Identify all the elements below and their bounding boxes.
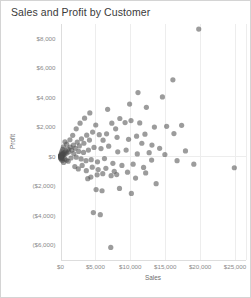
scatter-point[interactable]: [95, 159, 100, 164]
scatter-point[interactable]: [124, 147, 129, 152]
scatter-point[interactable]: [171, 131, 176, 136]
scatter-point[interactable]: [90, 129, 95, 134]
y-tick-label: $2,000: [37, 123, 56, 130]
scatter-point[interactable]: [113, 126, 118, 131]
scatter-point[interactable]: [183, 148, 188, 153]
scatter-point[interactable]: [164, 124, 169, 129]
scatter-point[interactable]: [70, 133, 75, 138]
scatter-point[interactable]: [133, 175, 138, 180]
scatter-point[interactable]: [232, 165, 237, 170]
scatter-point[interactable]: [129, 191, 134, 196]
scatter-point[interactable]: [88, 174, 93, 179]
scatter-point[interactable]: [84, 133, 89, 138]
scatter-point[interactable]: [87, 110, 92, 115]
scatter-point[interactable]: [83, 158, 88, 163]
scatter-point[interactable]: [74, 155, 79, 160]
scatter-point[interactable]: [103, 166, 108, 171]
scatter-point[interactable]: [196, 27, 201, 32]
y-tick-label: $4,000: [37, 94, 56, 101]
scatter-point[interactable]: [114, 135, 119, 140]
scatter-point[interactable]: [91, 210, 96, 215]
y-tick-label: $0: [49, 153, 56, 160]
scatter-point[interactable]: [98, 212, 103, 217]
scatter-point[interactable]: [91, 145, 96, 150]
scatter-point[interactable]: [141, 165, 146, 170]
scatter-point[interactable]: [58, 155, 63, 160]
scatter-point[interactable]: [86, 147, 91, 152]
scatter-point[interactable]: [134, 134, 139, 139]
scatter-point[interactable]: [122, 120, 127, 125]
scatter-point[interactable]: [84, 168, 89, 173]
scatter-point[interactable]: [109, 173, 114, 178]
scatter-point[interactable]: [108, 245, 113, 250]
scatter-point[interactable]: [100, 171, 105, 176]
scatter-point[interactable]: [152, 124, 157, 129]
scatter-point[interactable]: [90, 165, 95, 170]
scatter-point[interactable]: [76, 166, 81, 171]
scatter-point[interactable]: [154, 181, 159, 186]
scatter-point[interactable]: [126, 137, 131, 142]
scatter-point[interactable]: [139, 141, 144, 146]
scatter-point[interactable]: [143, 170, 148, 175]
scatter-point[interactable]: [179, 123, 184, 128]
scatter-point[interactable]: [115, 149, 120, 154]
scatter-point[interactable]: [135, 151, 140, 156]
scatter-point[interactable]: [110, 161, 115, 166]
scatter-point[interactable]: [78, 156, 83, 161]
scatter-point[interactable]: [99, 188, 104, 193]
scatter-point[interactable]: [128, 118, 133, 123]
scatter-point[interactable]: [76, 149, 81, 154]
scatter-point[interactable]: [127, 101, 132, 106]
scatter-point[interactable]: [125, 170, 130, 175]
scatter-point[interactable]: [135, 90, 140, 95]
scatter-point[interactable]: [119, 163, 124, 168]
scatter-point[interactable]: [147, 150, 152, 155]
scatter-point[interactable]: [104, 131, 109, 136]
scatter-point[interactable]: [82, 116, 87, 121]
scatter-point[interactable]: [100, 138, 105, 143]
scatter-point[interactable]: [87, 137, 92, 142]
x-axis-title: Sales: [145, 274, 161, 281]
scatter-point[interactable]: [89, 157, 94, 162]
scatter-point[interactable]: [81, 141, 86, 146]
scatter-point[interactable]: [77, 121, 82, 126]
scatter-point[interactable]: [79, 136, 84, 141]
scatter-point[interactable]: [97, 132, 102, 137]
scatter-point[interactable]: [131, 162, 136, 167]
scatter-point[interactable]: [106, 144, 111, 149]
scatter-point[interactable]: [174, 158, 179, 163]
scatter-point[interactable]: [93, 122, 98, 127]
scatter-point[interactable]: [170, 77, 175, 82]
scatter-point[interactable]: [102, 156, 107, 161]
scatter-point[interactable]: [149, 142, 154, 147]
scatter-point[interactable]: [80, 163, 85, 168]
y-tick-label: $8,000: [37, 35, 56, 42]
scatter-point[interactable]: [157, 146, 162, 151]
scatter-point[interactable]: [94, 187, 99, 192]
scatter-point[interactable]: [160, 94, 165, 99]
scatter-point[interactable]: [191, 162, 196, 167]
scatter-point[interactable]: [109, 121, 114, 126]
scatter-point[interactable]: [112, 169, 117, 174]
scatter-point[interactable]: [62, 139, 67, 144]
scatter-point[interactable]: [67, 137, 72, 142]
scatter-point[interactable]: [74, 126, 79, 131]
scatter-point[interactable]: [144, 105, 149, 110]
scatter-point[interactable]: [117, 116, 122, 121]
scatter-point[interactable]: [137, 120, 142, 125]
x-tick-label: $15,000: [154, 263, 177, 270]
scatter-point[interactable]: [142, 132, 147, 137]
chart-container: Sales and Profit by Customer $8,000$6,00…: [0, 0, 251, 298]
y-tick-label: $6,000: [37, 64, 56, 71]
scatter-point[interactable]: [105, 107, 110, 112]
scatter-point[interactable]: [81, 150, 86, 155]
y-tick-label: ($4,000): [32, 212, 55, 219]
scatter-point[interactable]: [162, 152, 167, 157]
scatter-point[interactable]: [149, 157, 154, 162]
x-tick-label: $10,000: [119, 263, 142, 270]
scatter-point[interactable]: [96, 167, 101, 172]
x-tick-label: $0: [57, 263, 64, 270]
scatter-point[interactable]: [117, 186, 122, 191]
scatter-point[interactable]: [98, 146, 103, 151]
scatter-point[interactable]: [95, 172, 100, 177]
